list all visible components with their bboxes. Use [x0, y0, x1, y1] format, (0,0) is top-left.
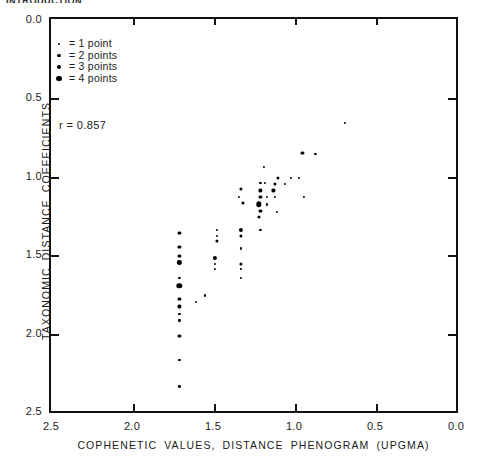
- data-point: [344, 122, 346, 124]
- legend-item-label: = 4 points: [69, 73, 117, 85]
- data-point: [178, 277, 180, 279]
- legend-item: = 4 points: [52, 73, 117, 85]
- x-tick-label: 0.5: [367, 420, 383, 432]
- data-point: [214, 268, 216, 270]
- x-tick-top: [295, 19, 297, 25]
- y-tick-left: [51, 177, 59, 179]
- x-tick-top: [376, 19, 378, 25]
- data-point: [277, 176, 280, 179]
- data-point: [213, 256, 217, 260]
- y-tick-left: [51, 255, 59, 257]
- data-point: [290, 177, 292, 179]
- x-tick-bottom: [214, 404, 216, 411]
- data-point: [178, 359, 180, 361]
- data-point: [259, 209, 262, 212]
- data-point: [259, 195, 262, 198]
- data-point: [178, 313, 180, 315]
- legend-item: = 1 point: [52, 38, 117, 50]
- data-point: [238, 196, 240, 198]
- data-point: [272, 189, 275, 192]
- data-point: [259, 189, 262, 192]
- x-tick-bottom: [133, 404, 135, 411]
- correlation-annotation: r = 0.857: [59, 119, 106, 131]
- x-tick-label: 1.0: [286, 420, 302, 432]
- data-point: [240, 268, 242, 270]
- y-tick-label: 0.0: [8, 13, 42, 25]
- data-point: [239, 262, 242, 265]
- data-point: [275, 211, 277, 213]
- data-point: [301, 151, 304, 154]
- x-tick-top: [214, 19, 216, 25]
- data-point: [178, 335, 181, 338]
- data-point: [178, 255, 181, 258]
- data-point: [178, 385, 180, 387]
- data-point: [266, 203, 268, 205]
- data-point: [204, 294, 206, 296]
- y-tick-label: 2.0: [8, 327, 42, 339]
- point-marker-icon: [58, 43, 60, 45]
- legend: = 1 point= 2 points= 3 points= 4 points: [52, 38, 117, 84]
- x-tick-bottom: [376, 404, 378, 411]
- figure-canvas: INTRODUCTION COPHENETIC VALUES, DISTANCE…: [0, 0, 483, 462]
- data-point: [314, 153, 316, 155]
- x-tick-label: 0.0: [448, 420, 464, 432]
- data-point: [216, 228, 218, 230]
- data-point: [298, 177, 300, 179]
- y-tick-right: [448, 98, 456, 100]
- data-point: [264, 181, 266, 183]
- data-point: [241, 201, 244, 204]
- data-point: [178, 305, 181, 308]
- y-tick-right: [448, 177, 456, 179]
- y-axis-title: TAXONOMIC DISTANCE COEFFICIENTS: [40, 91, 52, 351]
- x-tick-label: 1.5: [205, 420, 221, 432]
- data-point: [266, 196, 268, 198]
- data-point: [274, 196, 276, 198]
- y-tick-right: [448, 334, 456, 336]
- data-point: [240, 277, 242, 279]
- data-point: [240, 247, 242, 249]
- x-tick-top: [133, 19, 135, 25]
- x-axis-title: COPHENETIC VALUES, DISTANCE PHENOGRAM (U…: [49, 439, 458, 451]
- data-point: [177, 260, 181, 264]
- data-point: [259, 228, 261, 230]
- x-tick-label: 2.0: [124, 420, 140, 432]
- data-point: [214, 263, 216, 265]
- data-point: [177, 283, 182, 288]
- legend-dot-swatch: [52, 43, 66, 45]
- x-tick-label: 2.5: [43, 420, 59, 432]
- data-point: [257, 215, 260, 218]
- data-point: [239, 187, 242, 190]
- data-point: [216, 235, 218, 237]
- data-point: [259, 181, 261, 183]
- y-tick-left: [51, 334, 59, 336]
- legend-item-label: = 1 point: [69, 38, 112, 50]
- data-point: [284, 183, 286, 185]
- data-point: [178, 319, 180, 321]
- y-tick-label: 2.5: [8, 405, 42, 417]
- data-point: [178, 297, 181, 300]
- y-tick-left: [51, 98, 59, 100]
- point-marker-icon: [56, 76, 61, 81]
- data-point: [178, 245, 181, 248]
- y-tick-label: 1.0: [8, 170, 42, 182]
- legend-dot-swatch: [52, 76, 66, 81]
- data-point: [256, 202, 261, 207]
- data-point: [303, 196, 305, 198]
- point-marker-icon: [57, 54, 60, 57]
- data-point: [239, 234, 242, 237]
- legend-dot-swatch: [52, 54, 66, 57]
- data-point: [273, 182, 276, 185]
- data-point: [178, 231, 181, 234]
- x-tick-bottom: [295, 404, 297, 411]
- y-tick-right: [448, 255, 456, 257]
- y-tick-label: 1.5: [8, 248, 42, 260]
- data-point: [263, 166, 265, 168]
- point-marker-icon: [57, 65, 61, 69]
- legend-dot-swatch: [52, 65, 66, 69]
- data-point: [194, 301, 196, 303]
- y-tick-label: 0.5: [8, 91, 42, 103]
- data-point: [215, 239, 218, 242]
- cut-off-header-text: INTRODUCTION: [6, 0, 82, 3]
- data-point: [239, 227, 243, 231]
